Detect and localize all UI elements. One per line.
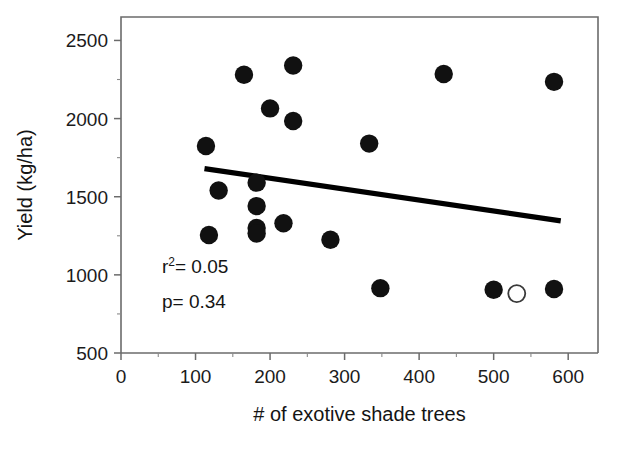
data-point-filled [235, 66, 253, 84]
p-value-annotation: p= 0.34 [162, 291, 226, 312]
y-axis-title: Yield (kg/ha) [14, 129, 36, 241]
x-tick-label-200: 200 [254, 366, 286, 387]
x-tick-label-600: 600 [552, 366, 584, 387]
data-point-filled [360, 134, 378, 152]
data-point-filled [247, 197, 265, 215]
data-point-filled [545, 73, 563, 91]
data-point-filled [261, 99, 279, 117]
x-tick-label-400: 400 [403, 366, 435, 387]
y-tick-label-1500: 1500 [66, 187, 108, 208]
data-point-filled [371, 279, 389, 297]
data-point-filled [545, 280, 563, 298]
data-point-filled [200, 226, 218, 244]
x-tick-label-0: 0 [116, 366, 127, 387]
x-tick-label-300: 300 [329, 366, 361, 387]
y-tick-label-2500: 2500 [66, 30, 108, 51]
y-tick-label-500: 500 [76, 343, 108, 364]
x-axis-title: # of exotive shade trees [253, 403, 465, 425]
x-tick-label-100: 100 [180, 366, 212, 387]
data-point-filled [247, 224, 265, 242]
data-point-filled [274, 214, 292, 232]
x-tick-label-500: 500 [478, 366, 510, 387]
data-point-filled [484, 281, 502, 299]
scatter-plot-figure: 0100200300400500600 5001000150020002500 … [0, 0, 638, 452]
data-point-open [508, 285, 525, 302]
data-point-filled [321, 230, 339, 248]
data-point-filled [209, 181, 227, 199]
data-point-filled [284, 56, 302, 74]
data-point-filled [197, 137, 215, 155]
y-tick-label-1000: 1000 [66, 265, 108, 286]
data-point-filled [284, 112, 302, 130]
y-tick-label-2000: 2000 [66, 109, 108, 130]
plot-background [0, 0, 638, 452]
data-point-filled [435, 65, 453, 83]
data-point-filled [247, 173, 265, 191]
plot-canvas: 0100200300400500600 5001000150020002500 … [0, 0, 638, 452]
